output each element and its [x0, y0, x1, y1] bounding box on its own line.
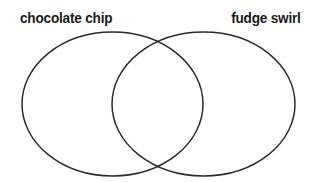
venn-diagram-canvas: chocolate chip fudge swirl: [0, 0, 313, 182]
venn-circles-group: [0, 0, 313, 182]
